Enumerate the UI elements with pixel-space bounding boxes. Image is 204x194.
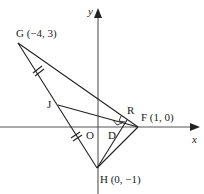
segment-GH	[18, 43, 97, 168]
x-axis-arrow-icon	[190, 123, 200, 131]
point-label-O: O	[86, 130, 94, 141]
segment-FH	[97, 127, 138, 168]
y-axis-label: y	[88, 6, 93, 17]
x-axis-label: x	[192, 134, 197, 145]
segment-GF	[18, 43, 138, 127]
coordinate-diagram: y x G (−4, 3) F (1, 0) H (0, −1) J R D O	[0, 0, 204, 194]
point-label-H: H (0, −1)	[100, 174, 141, 185]
point-label-G: G (−4, 3)	[16, 28, 57, 39]
point-label-F: F (1, 0)	[141, 112, 174, 123]
y-axis-arrow-icon	[94, 8, 102, 18]
point-label-R: R	[127, 105, 134, 116]
point-label-D: D	[108, 130, 116, 141]
point-label-J: J	[47, 99, 51, 110]
